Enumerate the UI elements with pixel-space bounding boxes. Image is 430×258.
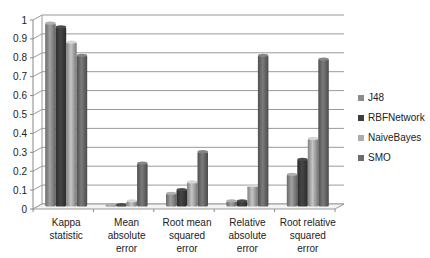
- legend-item-rbfnetwork: RBFNetwork: [358, 112, 426, 123]
- bar-naivebayes: [127, 199, 138, 206]
- bar-rbfnetwork: [116, 203, 127, 206]
- legend-label: J48: [368, 92, 385, 103]
- y-tick-label: 0.3: [13, 147, 27, 158]
- legend-item-smo: SMO: [358, 152, 391, 163]
- y-tick-label: 0.1: [13, 185, 27, 196]
- y-tick-label: 0.9: [13, 33, 27, 44]
- bars: [45, 22, 329, 207]
- y-tick-label: 0: [21, 204, 27, 215]
- bar-rbfnetwork: [297, 158, 308, 207]
- gridline-diagonal: [33, 147, 42, 152]
- x-category-label: Root meansquarederror: [163, 217, 212, 254]
- y-tick-label: 0.8: [13, 52, 27, 63]
- bar-rbfnetwork: [56, 25, 66, 206]
- bar-smo: [198, 150, 209, 206]
- x-category-label: Relativeabsoluteerror: [228, 217, 266, 254]
- legend: J48RBFNetworkNaiveBayesSMO: [358, 92, 426, 163]
- legend-item-j48: J48: [358, 92, 385, 103]
- bar-j48: [287, 173, 298, 207]
- gridline-diagonal: [33, 185, 42, 190]
- gridline-diagonal: [33, 34, 42, 39]
- legend-swatch: [358, 95, 364, 101]
- gridline-diagonal: [33, 72, 42, 77]
- y-tick-label: 0.7: [13, 71, 27, 82]
- x-category-label: Kappastatistic: [50, 217, 83, 241]
- x-category-label: Root relativesquarederror: [280, 217, 337, 254]
- bar-smo: [137, 161, 148, 206]
- bar-smo: [318, 57, 329, 206]
- bar-smo: [77, 54, 88, 207]
- gridline-diagonal: [33, 53, 42, 58]
- legend-item-naivebayes: NaiveBayes: [358, 132, 421, 143]
- y-tick-label: 1: [21, 15, 27, 26]
- bar-j48: [45, 22, 56, 207]
- legend-label: RBFNetwork: [368, 112, 426, 123]
- legend-swatch: [358, 115, 364, 121]
- y-tick-label: 0.5: [13, 109, 27, 120]
- gridline-diagonal: [33, 166, 42, 171]
- bar-naivebayes: [187, 180, 198, 206]
- legend-swatch: [358, 155, 364, 161]
- bar-j48: [106, 203, 117, 206]
- x-axis: KappastatisticMeanabsoluteerrorRoot mean…: [33, 209, 336, 254]
- gridline-diagonal: [33, 15, 42, 20]
- gridline-diagonal: [33, 110, 42, 115]
- y-tick-label: 0.4: [13, 128, 27, 139]
- legend-label: NaiveBayes: [368, 132, 421, 143]
- y-tick-label: 0.6: [13, 90, 27, 101]
- gridline-diagonal: [33, 91, 42, 96]
- bar-rbfnetwork: [177, 188, 188, 207]
- bar-j48: [226, 199, 237, 206]
- x-category-label: Meanabsoluteerror: [108, 217, 146, 254]
- bar-chart: 00.10.20.30.40.50.60.70.80.91 Kappastati…: [0, 0, 430, 258]
- legend-label: SMO: [368, 152, 391, 163]
- y-axis: 00.10.20.30.40.50.60.70.80.91: [13, 15, 42, 215]
- bar-naivebayes: [247, 184, 258, 206]
- gridline-diagonal: [33, 128, 42, 133]
- bar-naivebayes: [308, 137, 319, 207]
- legend-swatch: [358, 135, 364, 141]
- bar-smo: [258, 54, 269, 207]
- bar-naivebayes: [66, 40, 77, 206]
- bar-rbfnetwork: [237, 199, 248, 206]
- y-tick-label: 0.2: [13, 166, 27, 177]
- bar-j48: [166, 192, 177, 207]
